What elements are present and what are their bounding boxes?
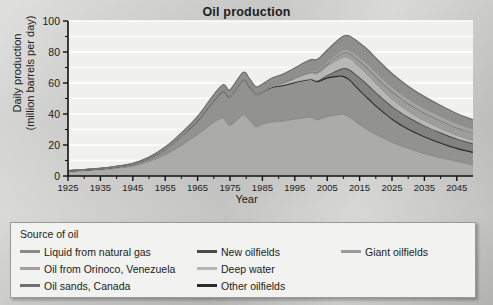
x-tick-label: 1995 [284, 182, 305, 193]
legend-column-3: Giant oilfields [341, 243, 428, 260]
x-tick-label: 1965 [187, 182, 208, 193]
legend-item-label: Deep water [221, 263, 275, 275]
legend-item: Oil from Orinoco, Venezuela [20, 260, 175, 277]
legend-swatch-icon [197, 250, 217, 253]
legend-item: New oilfields [197, 243, 285, 260]
y-tick-label: 20 [48, 139, 60, 151]
x-tick-label: 2005 [317, 182, 338, 193]
y-tick-label: 80 [48, 46, 60, 58]
legend-item-label: Oil from Orinoco, Venezuela [44, 263, 175, 275]
chart-legend: Source of oil Liquid from natural gasOil… [10, 222, 476, 298]
x-tick-label: 1985 [252, 182, 273, 193]
legend-column-1: Liquid from natural gasOil from Orinoco,… [20, 243, 175, 294]
x-tick-label: 1955 [155, 182, 176, 193]
legend-swatch-icon [197, 267, 217, 270]
chart-figure: Oil production Daily production (million… [0, 0, 493, 215]
x-tick-label: 2015 [349, 182, 370, 193]
legend-swatch-icon [20, 284, 40, 287]
legend-item-label: Liquid from natural gas [44, 246, 151, 258]
legend-swatch-icon [20, 267, 40, 270]
x-tick-label: 1945 [122, 182, 143, 193]
legend-item-label: Giant oilfields [365, 246, 428, 258]
y-tick-label: 0 [54, 170, 60, 182]
legend-title: Source of oil [20, 228, 78, 240]
legend-item: Giant oilfields [341, 243, 428, 260]
x-tick-label: 2025 [381, 182, 402, 193]
legend-item-label: Other oilfields [221, 280, 285, 292]
y-tick-label: 40 [48, 108, 60, 120]
y-tick-label: 100 [42, 15, 60, 27]
x-tick-label: 1935 [90, 182, 111, 193]
legend-item: Deep water [197, 260, 285, 277]
x-tick-label: 2045 [446, 182, 467, 193]
legend-swatch-icon [197, 284, 217, 287]
x-tick-label: 1925 [57, 182, 78, 193]
x-tick-label: 1975 [219, 182, 240, 193]
y-tick-label: 60 [48, 77, 60, 89]
legend-item: Other oilfields [197, 277, 285, 294]
legend-item: Oil sands, Canada [20, 277, 175, 294]
legend-column-2: New oilfieldsDeep waterOther oilfields [197, 243, 285, 294]
legend-item-label: New oilfields [221, 246, 280, 258]
x-tick-label: 2035 [414, 182, 435, 193]
legend-item-label: Oil sands, Canada [44, 280, 130, 292]
plot-canvas: 0204060801001925193519451955196519751985… [0, 0, 493, 215]
legend-swatch-icon [20, 250, 40, 253]
legend-item: Liquid from natural gas [20, 243, 175, 260]
legend-swatch-icon [341, 250, 361, 253]
